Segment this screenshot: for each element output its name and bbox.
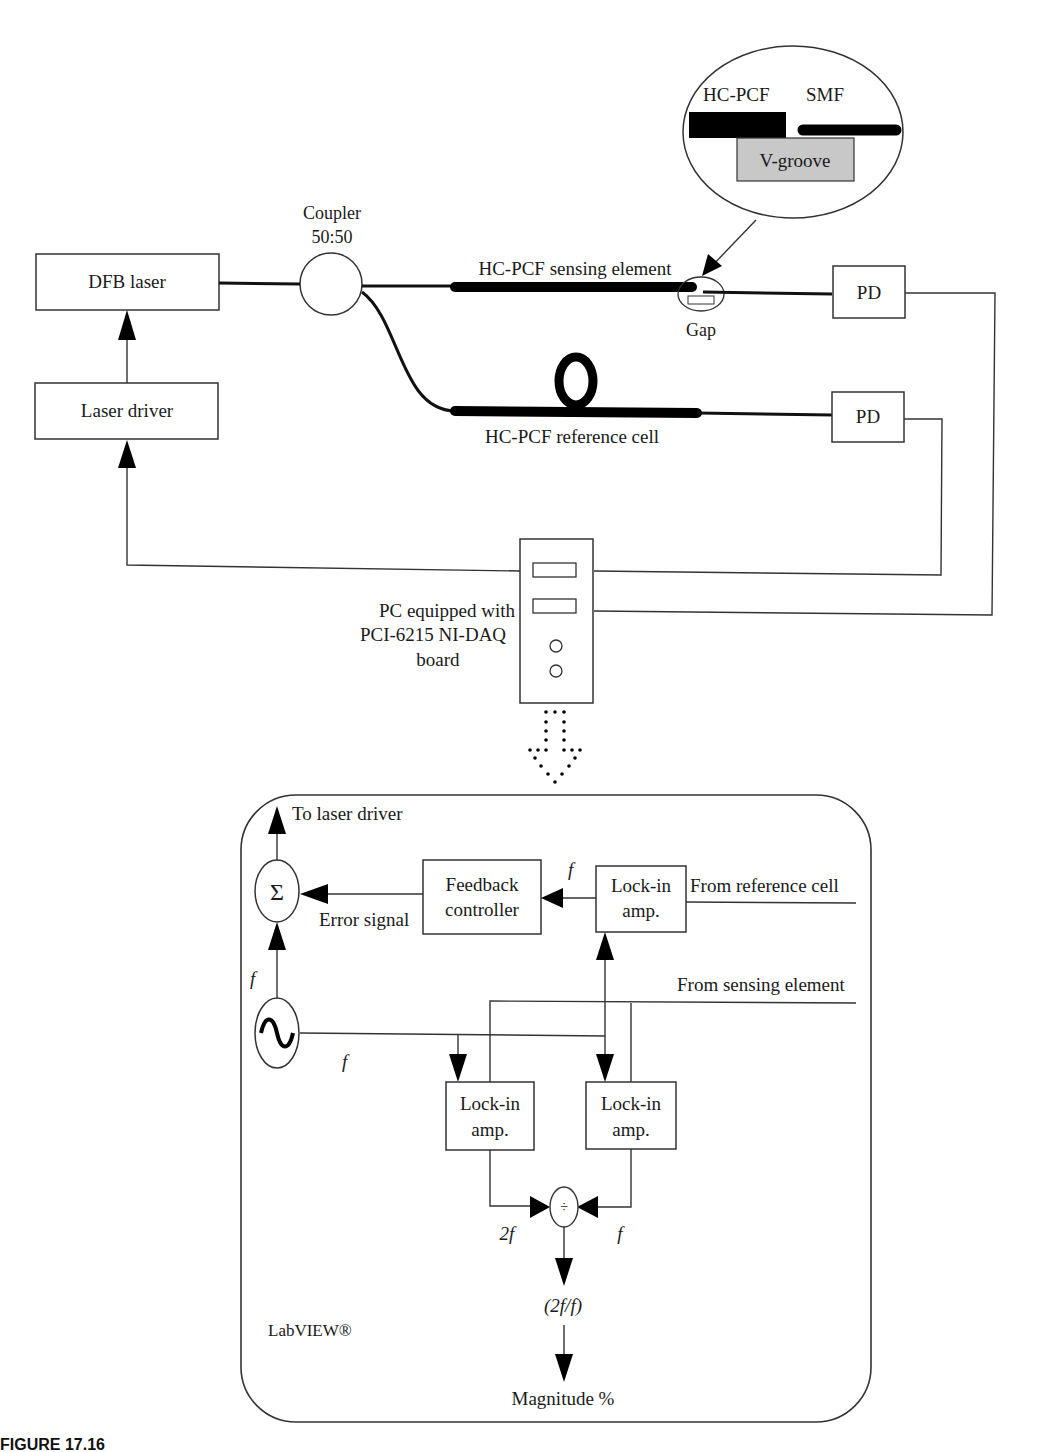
wire-oscillator-ref (300, 1033, 605, 1036)
wire-pd-top-to-pc (594, 293, 995, 615)
divide-icon: ÷ (560, 1200, 568, 1215)
inset-vgroove-label: V-groove (759, 150, 830, 171)
lockin-ref-label-2: amp. (622, 900, 659, 921)
gap-label: Gap (686, 320, 716, 340)
diagram-canvas: HC-PCF SMF V-groove Coupler 50:50 DFB la… (0, 0, 1037, 1452)
pd-top-label: PD (857, 282, 881, 303)
feedback-controller-label-1: Feedback (446, 874, 519, 895)
f-label-divider: f (617, 1223, 625, 1244)
wire-pc-to-laser-driver (127, 462, 520, 571)
lockin-ref-label-1: Lock-in (611, 875, 672, 896)
magnitude-arrow (555, 1354, 573, 1382)
dfb-laser-label: DFB laser (88, 271, 166, 292)
2f-input-arrow (530, 1196, 550, 1218)
pd-bottom-label: PD (856, 406, 880, 427)
magnitude-label: Magnitude % (512, 1388, 615, 1409)
hcpcf-fiber-end (689, 112, 786, 138)
pc-label-line3: board (416, 649, 460, 670)
feedback-controller-label-2: controller (445, 899, 520, 920)
ratio-label: (2f/f) (544, 1295, 582, 1317)
error-signal-arrow (300, 884, 328, 904)
f-input-arrow (577, 1196, 598, 1218)
ref-to-right-lockin-arrow (596, 1054, 614, 1082)
f-label-oscillator: f (342, 1051, 350, 1072)
lockin-right-label-2: amp. (612, 1119, 649, 1140)
ref-to-left-lockin-arrow (449, 1054, 467, 1082)
figure-caption: FIGURE 17.16 (0, 1436, 105, 1452)
to-laser-driver-label: To laser driver (292, 803, 403, 824)
inset-pointer-arrowhead (702, 254, 722, 276)
wire-from-reference-cell (686, 902, 856, 903)
gap-ellipse (678, 277, 724, 311)
lockin-left-label-1: Lock-in (460, 1093, 521, 1114)
from-reference-cell-label: From reference cell (690, 875, 839, 896)
reference-cell-label: HC-PCF reference cell (485, 426, 659, 447)
error-signal-label: Error signal (319, 909, 409, 930)
driver-to-laser-arrow (118, 310, 136, 340)
labview-label: LabVIEW® (268, 1321, 352, 1340)
inset-pointer-line (710, 220, 756, 268)
pc-drive-bay-1 (533, 563, 576, 577)
fiber-laser-to-coupler (219, 283, 300, 284)
inset-hcpcf-label: HC-PCF (703, 84, 770, 105)
reference-fiber-loop (559, 357, 593, 405)
coupler-ratio-label: 50:50 (311, 227, 352, 247)
feedback-controller-box (423, 860, 541, 934)
pc-drive-bay-2 (533, 599, 576, 613)
coupler-circle (300, 253, 362, 315)
hcpcf-reference-cell-fiber (455, 411, 697, 413)
2f-label: 2f (500, 1223, 518, 1244)
pc-label-line1: PC equipped with (379, 600, 516, 621)
dotted-down-arrow (528, 710, 582, 784)
sigma-icon: Σ (270, 879, 284, 905)
divider-output-arrow (555, 1258, 573, 1286)
oscillator-to-sum-arrow (268, 922, 286, 950)
lockin-right-label-1: Lock-in (601, 1093, 662, 1114)
ref-to-lockin-ref-arrow (596, 932, 614, 960)
f-label-sum: f (250, 968, 258, 989)
inset-magnifier: HC-PCF SMF V-groove (683, 46, 903, 218)
lockin-to-feedback-arrow (541, 888, 563, 908)
f-label-feedback: f (568, 859, 576, 880)
coupler-label: Coupler (303, 203, 361, 223)
inset-smf-label: SMF (806, 84, 844, 105)
gap-vgroove (688, 296, 714, 304)
laser-driver-label: Laser driver (81, 400, 174, 421)
wire-sensing-to-left-lockin (490, 1001, 856, 1082)
to-laser-driver-arrow (268, 806, 286, 834)
fiber-coupler-to-reference (362, 292, 455, 411)
lockin-left-label-2: amp. (471, 1119, 508, 1140)
sensing-element-label: HC-PCF sensing element (478, 258, 672, 279)
pc-label-line2: PCI-6215 NI-DAQ (360, 624, 506, 645)
from-sensing-element-label: From sensing element (677, 974, 846, 995)
